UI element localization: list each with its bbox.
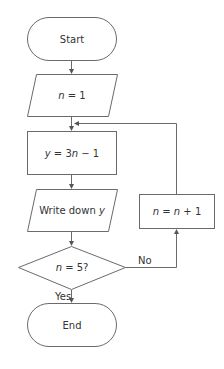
output-label: Write down y [39,205,106,216]
arrow-down-icon [69,69,74,74]
start-label: Start [60,34,85,45]
arrow-up-icon [174,229,179,234]
end-label: End [62,320,81,331]
edge-start-init [69,61,74,74]
start-node: Start [28,18,117,61]
compute-label: y = 3n − 1 [44,148,99,159]
yes-label: Yes [54,291,71,302]
increment-label: n = n + 1 [153,206,202,217]
end-node: End [28,304,117,347]
edge-init-compute [69,117,74,131]
output-node: Write down y [28,190,118,232]
flowchart: Start n = 1 y = 3n − 1 Write down y n = … [0,0,224,369]
decision-node: n = 5? [19,247,126,290]
arrow-down-icon [69,241,74,246]
edge-output-decision [69,232,74,246]
init-label: n = 1 [58,90,85,101]
arrow-left-icon [74,121,79,126]
arrow-down-icon [69,184,74,189]
edge-compute-output [69,175,74,189]
no-label: No [138,255,152,266]
arrow-down-icon [69,126,74,131]
init-node: n = 1 [28,75,118,117]
edge-decision-end: Yes [54,290,74,303]
compute-node: y = 3n − 1 [28,132,117,175]
edge-decision-increment: No [126,229,180,268]
decision-label: n = 5? [56,262,89,273]
increment-node: n = n + 1 [140,195,215,229]
